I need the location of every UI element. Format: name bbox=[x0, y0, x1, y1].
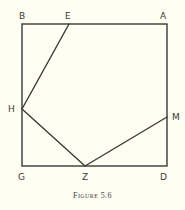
geometry-figure: B E A H M G Z D bbox=[0, 0, 185, 210]
label-A: A bbox=[160, 11, 167, 21]
segment-EH bbox=[22, 24, 69, 109]
label-H: H bbox=[8, 104, 15, 114]
label-E: E bbox=[65, 11, 71, 21]
square-outline bbox=[22, 24, 167, 166]
square-BADG bbox=[22, 24, 167, 166]
segment-ZM bbox=[85, 117, 167, 166]
interior-segments bbox=[22, 24, 167, 166]
label-G: G bbox=[18, 172, 25, 182]
figure-caption: Figure 5.6 bbox=[0, 191, 185, 200]
point-labels: B E A H M G Z D bbox=[8, 11, 180, 182]
label-M: M bbox=[172, 112, 180, 122]
label-B: B bbox=[19, 11, 25, 21]
label-Z: Z bbox=[82, 172, 88, 182]
label-D: D bbox=[160, 172, 167, 182]
segment-HZ bbox=[22, 109, 85, 166]
